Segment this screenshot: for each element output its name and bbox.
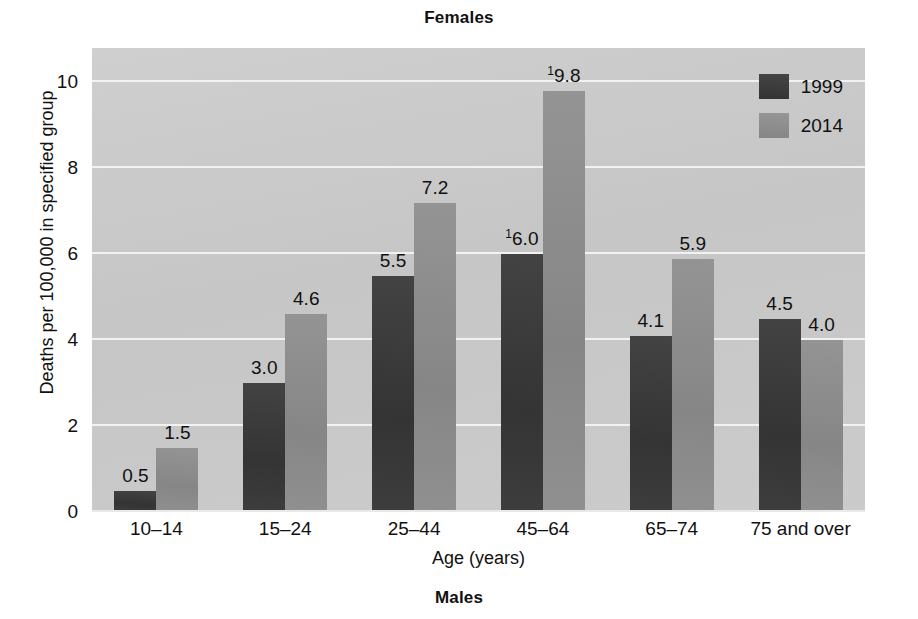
bar-value-label: 1.5 bbox=[164, 422, 190, 444]
bar-2014-75-and-over[interactable] bbox=[801, 340, 843, 512]
x-axis-ticks: 10–1415–2425–4445–6465–7475 and over bbox=[92, 518, 865, 548]
legend-swatch-icon bbox=[759, 113, 789, 138]
x-tick-label: 10–14 bbox=[130, 518, 183, 540]
bar-1999-10–14[interactable] bbox=[114, 491, 156, 512]
y-tick-label: 4 bbox=[67, 329, 78, 351]
bar-value-label: 4.1 bbox=[638, 310, 664, 332]
y-tick-label: 8 bbox=[67, 157, 78, 179]
bar-value-label: 4.6 bbox=[293, 288, 319, 310]
bar-2014-45–64[interactable] bbox=[543, 91, 585, 512]
gridline bbox=[92, 252, 865, 254]
bar-2014-10–14[interactable] bbox=[156, 448, 198, 512]
bar-value-label: 0.5 bbox=[122, 465, 148, 487]
bar-1999-65–74[interactable] bbox=[630, 336, 672, 512]
bar-2014-15–24[interactable] bbox=[285, 314, 327, 512]
axis-baseline bbox=[92, 510, 865, 512]
y-tick-label: 10 bbox=[57, 71, 78, 93]
chart-title-males: Males bbox=[0, 588, 918, 608]
y-axis-label: Deaths per 100,000 in specified group bbox=[37, 28, 58, 458]
y-tick-label: 0 bbox=[67, 501, 78, 523]
legend-item-label: 1999 bbox=[801, 76, 843, 98]
legend-item-1999[interactable]: 1999 bbox=[759, 74, 843, 99]
legend-item-label: 2014 bbox=[801, 115, 843, 137]
bar-value-label: 7.2 bbox=[422, 177, 448, 199]
bar-value-label: 5.5 bbox=[380, 250, 406, 272]
bar-1999-15–24[interactable] bbox=[243, 383, 285, 512]
bar-value-label: 4.0 bbox=[808, 314, 834, 336]
bar-1999-45–64[interactable] bbox=[501, 254, 543, 512]
x-tick-label: 45–64 bbox=[516, 518, 569, 540]
bar-value-label: 16.0 bbox=[505, 228, 538, 250]
gridline bbox=[92, 424, 865, 426]
bar-2014-65–74[interactable] bbox=[672, 259, 714, 512]
gridline bbox=[92, 338, 865, 340]
x-axis-label: Age (years) bbox=[92, 548, 865, 569]
plot-area: 0.51.53.04.65.57.216.019.84.15.94.54.0 1… bbox=[92, 48, 865, 512]
bar-value-label: 19.8 bbox=[547, 65, 580, 87]
x-tick-label: 65–74 bbox=[645, 518, 698, 540]
x-tick-label: 15–24 bbox=[259, 518, 312, 540]
bar-1999-75-and-over[interactable] bbox=[759, 319, 801, 512]
y-tick-label: 2 bbox=[67, 415, 78, 437]
legend: 19992014 bbox=[759, 74, 843, 152]
legend-swatch-icon bbox=[759, 74, 789, 99]
gridline bbox=[92, 80, 865, 82]
bar-value-label: 5.9 bbox=[680, 233, 706, 255]
bar-value-label: 4.5 bbox=[766, 293, 792, 315]
gridline bbox=[92, 166, 865, 168]
x-tick-label: 75 and over bbox=[750, 518, 850, 540]
x-tick-label: 25–44 bbox=[388, 518, 441, 540]
bar-value-label: 3.0 bbox=[251, 357, 277, 379]
legend-item-2014[interactable]: 2014 bbox=[759, 113, 843, 138]
bar-1999-25–44[interactable] bbox=[372, 276, 414, 512]
bar-2014-25–44[interactable] bbox=[414, 203, 456, 512]
y-tick-label: 6 bbox=[67, 243, 78, 265]
chart-title-females: Females bbox=[0, 8, 918, 28]
